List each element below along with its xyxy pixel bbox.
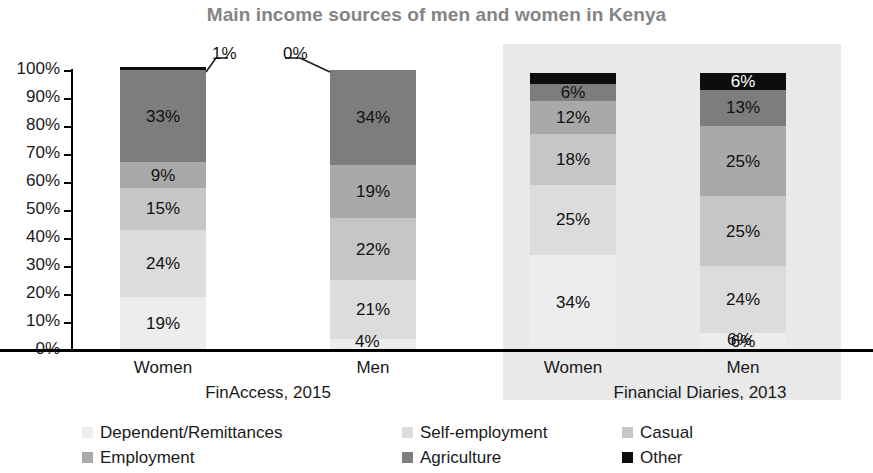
chart-root: Main income sources of men and women in … — [0, 0, 873, 473]
callout-label-0pct: 0% — [283, 44, 308, 64]
callout-leader-lines — [0, 0, 873, 473]
callout-label-1pct: 1% — [212, 44, 237, 64]
